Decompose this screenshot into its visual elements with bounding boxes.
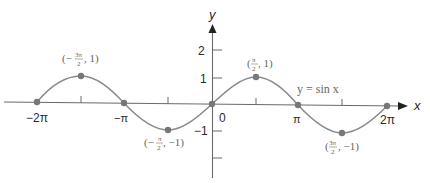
svg-text:3π: 3π bbox=[75, 51, 83, 59]
x-tick-zero: 0 bbox=[219, 111, 226, 125]
svg-text:, 1): , 1) bbox=[84, 52, 99, 65]
y-axis-arrow-icon bbox=[209, 24, 217, 33]
x-tick-neg2pi: −2π bbox=[26, 111, 48, 125]
point-neg3pi2 bbox=[78, 73, 84, 79]
y-axis-label: y bbox=[208, 7, 217, 22]
y-tick-1: 1 bbox=[200, 72, 207, 86]
svg-text:, 1): , 1) bbox=[258, 57, 273, 70]
sine-graph: y x −2π −π 0 π 2π 2 1 −1 y = sin x (− 3π… bbox=[0, 0, 430, 183]
label-pi2: ( π 2 , 1) bbox=[247, 56, 273, 73]
svg-text:(−: (− bbox=[62, 52, 72, 65]
point-pi bbox=[295, 102, 301, 108]
svg-text:π: π bbox=[158, 135, 162, 143]
point-3pi2 bbox=[339, 130, 345, 136]
x-tick-pi: π bbox=[293, 113, 301, 125]
svg-text:(: ( bbox=[247, 57, 251, 70]
y-tick-2: 2 bbox=[198, 44, 205, 58]
x-axis-label: x bbox=[413, 98, 421, 113]
label-negpi2: (− π 2 , −1) bbox=[144, 135, 184, 152]
svg-text:, −1): , −1) bbox=[163, 136, 184, 149]
svg-text:2: 2 bbox=[331, 148, 335, 156]
svg-text:2: 2 bbox=[252, 65, 256, 73]
svg-text:, −1): , −1) bbox=[338, 140, 359, 153]
point-negpi2 bbox=[165, 127, 171, 133]
point-neg2pi bbox=[34, 99, 40, 105]
svg-text:2: 2 bbox=[77, 60, 81, 68]
point-negpi bbox=[121, 100, 127, 106]
label-3pi2: ( 3π 2 , −1) bbox=[325, 139, 359, 156]
x-axis-arrow-icon bbox=[398, 102, 408, 110]
y-tick-neg1: −1 bbox=[194, 124, 208, 138]
point-pi2 bbox=[253, 74, 259, 80]
x-axis bbox=[4, 96, 408, 110]
label-neg3pi2: (− 3π 2 , 1) bbox=[62, 51, 99, 68]
equation-label: y = sin x bbox=[297, 82, 339, 96]
x-tick-2pi: 2π bbox=[380, 113, 395, 127]
svg-text:3π: 3π bbox=[329, 139, 337, 147]
x-tick-negpi: −π bbox=[114, 112, 128, 124]
point-2pi bbox=[384, 103, 390, 109]
svg-text:2: 2 bbox=[157, 144, 161, 152]
svg-text:(−: (− bbox=[144, 136, 154, 149]
point-origin bbox=[209, 101, 215, 107]
svg-text:π: π bbox=[252, 56, 256, 64]
